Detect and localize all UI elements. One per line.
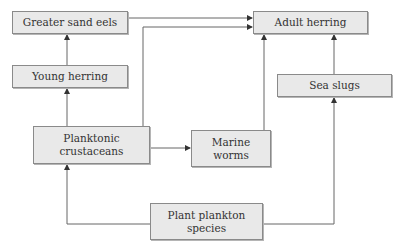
node-label: Sea slugs [309, 79, 360, 92]
node-adult-herring: Adult herring [253, 11, 368, 34]
node-sea-slugs: Sea slugs [277, 74, 392, 97]
node-label-line1: Marine [212, 136, 250, 149]
node-label-line1: Plant plankton [168, 209, 246, 222]
node-label-line2: worms [213, 149, 249, 162]
node-planktonic-crustaceans: Planktonic crustaceans [33, 126, 150, 164]
node-plant-plankton: Plant plankton species [150, 203, 263, 240]
node-greater-sand-eels: Greater sand eels [12, 11, 128, 34]
node-label-line2: species [187, 222, 226, 235]
node-label: Adult herring [275, 16, 347, 29]
node-young-herring: Young herring [12, 65, 128, 88]
node-label-line1: Planktonic [63, 132, 119, 145]
node-label: Young herring [32, 70, 108, 83]
arrow-crustaceans-to-adult [143, 27, 252, 126]
food-web-diagram: Greater sand eels Young herring Plankton… [0, 0, 401, 252]
node-marine-worms: Marine worms [191, 130, 271, 167]
arrow-plankton-to-crustaceans [67, 165, 150, 224]
node-label: Greater sand eels [23, 16, 117, 29]
node-label-line2: crustaceans [59, 145, 123, 158]
arrow-plankton-to-slugs [263, 98, 334, 224]
